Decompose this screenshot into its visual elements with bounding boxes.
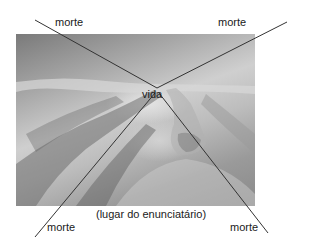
label-morte-bottom-right: morte <box>230 222 258 233</box>
line-top-right <box>157 22 287 88</box>
label-morte-top-left: morte <box>55 17 83 28</box>
label-morte-top-right: morte <box>218 17 246 28</box>
label-vida-center: vida <box>142 89 162 100</box>
label-morte-bottom-left: morte <box>47 222 75 233</box>
line-top-left <box>35 20 157 88</box>
caption-lugar-do-enunciatario: (lugar do enunciatário) <box>96 209 206 220</box>
